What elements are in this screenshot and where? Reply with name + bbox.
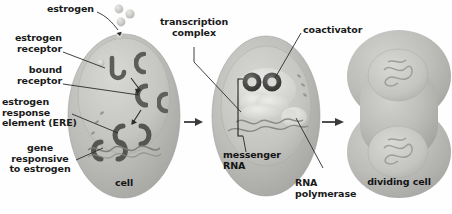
label-estrogen-response-element: estrogen response element (ERE) xyxy=(2,97,80,129)
stage-dividing-cell xyxy=(347,30,451,198)
estrogen-molecules xyxy=(115,5,135,27)
flow-arrow-2 xyxy=(322,118,344,126)
rna-polymerase-shape xyxy=(281,107,307,127)
flow-arrow-1 xyxy=(184,118,203,126)
label-cell: cell xyxy=(104,178,144,189)
label-rna-polymerase: RNA polymerase xyxy=(295,178,367,199)
label-transcription-complex: transcription complex xyxy=(151,17,237,38)
label-estrogen-receptor: estrogen receptor xyxy=(4,33,62,54)
label-estrogen: estrogen xyxy=(14,4,94,15)
label-dividing-cell: dividing cell xyxy=(362,177,436,188)
label-bound-receptor: bound receptor xyxy=(4,65,62,86)
stage-transcribing-cell xyxy=(212,36,320,196)
label-gene-responsive-to-estrogen: gene responsive to estrogen xyxy=(4,143,76,175)
figure-canvas: estrogen estrogen receptor bound recepto… xyxy=(0,0,452,214)
label-coactivator: coactivator xyxy=(303,25,375,36)
stage-cell xyxy=(68,32,180,198)
label-messenger-rna: messenger RNA xyxy=(223,150,293,171)
